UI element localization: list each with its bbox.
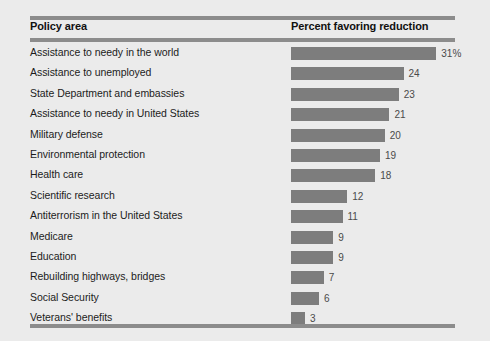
bar-track: 9 xyxy=(291,251,455,265)
bar-value-label: 31% xyxy=(441,47,461,60)
header-rule-bottom xyxy=(30,38,455,42)
bar-value-label: 12 xyxy=(352,190,363,203)
bar-track: 18 xyxy=(291,169,455,183)
bar xyxy=(291,231,333,244)
bar xyxy=(291,190,347,203)
row-label: Social Security xyxy=(30,291,99,303)
bar-track: 19 xyxy=(291,149,455,163)
bar xyxy=(291,292,319,305)
bar-value-label: 19 xyxy=(385,149,396,162)
bar-track: 9 xyxy=(291,231,455,245)
bar xyxy=(291,47,436,60)
row-label: Education xyxy=(30,250,76,262)
bar xyxy=(291,149,380,162)
row-label: Rebuilding highways, bridges xyxy=(30,270,165,282)
bar-value-label: 18 xyxy=(380,169,391,182)
bar xyxy=(291,67,404,80)
table-header: Policy area Percent favoring reduction xyxy=(30,20,455,38)
table-row: Education9 xyxy=(30,248,455,268)
bar-value-label: 9 xyxy=(338,251,344,264)
bar-value-label: 9 xyxy=(338,231,344,244)
row-label: Environmental protection xyxy=(30,148,145,160)
bar-track: 12 xyxy=(291,190,455,204)
table-row: Antiterrorism in the United States11 xyxy=(30,207,455,227)
bar-value-label: 11 xyxy=(348,210,358,223)
bar-track: 31% xyxy=(291,47,455,61)
table-row: Scientific research12 xyxy=(30,187,455,207)
bar-chart: Policy area Percent favoring reduction A… xyxy=(30,0,455,341)
row-label: Assistance to needy in United States xyxy=(30,107,199,119)
bar-value-label: 6 xyxy=(324,292,330,305)
bar-value-label: 20 xyxy=(390,129,401,142)
bar xyxy=(291,169,375,182)
column-header-policy-area: Policy area xyxy=(30,20,87,32)
bar xyxy=(291,251,333,264)
bar xyxy=(291,129,385,142)
row-label: Assistance to needy in the world xyxy=(30,46,179,58)
bar xyxy=(291,210,343,223)
row-label: Medicare xyxy=(30,230,73,242)
bar-value-label: 24 xyxy=(409,67,420,80)
table-row: Assistance to unemployed24 xyxy=(30,64,455,84)
row-label: Veterans' benefits xyxy=(30,311,112,323)
bar xyxy=(291,108,389,121)
bar-track: 23 xyxy=(291,88,455,102)
bar-track: 20 xyxy=(291,129,455,143)
column-header-percent: Percent favoring reduction xyxy=(291,20,428,32)
bar xyxy=(291,271,324,284)
row-label: Assistance to unemployed xyxy=(30,66,151,78)
table-row: Environmental protection19 xyxy=(30,146,455,166)
bar-value-label: 7 xyxy=(329,271,335,284)
bar-value-label: 21 xyxy=(394,108,405,121)
table-row: State Department and embassies23 xyxy=(30,85,455,105)
footer-rule xyxy=(30,324,455,328)
bar-track: 24 xyxy=(291,67,455,81)
row-label: Health care xyxy=(30,168,83,180)
row-label: Scientific research xyxy=(30,189,115,201)
row-label: Antiterrorism in the United States xyxy=(30,209,182,221)
table-row: Health care18 xyxy=(30,166,455,186)
bar-rows: Assistance to needy in the world31%Assis… xyxy=(30,44,455,329)
bar-track: 21 xyxy=(291,108,455,122)
table-row: Social Security6 xyxy=(30,289,455,309)
table-row: Assistance to needy in the world31% xyxy=(30,44,455,64)
bar-track: 11 xyxy=(291,210,455,224)
row-label: Military defense xyxy=(30,128,103,140)
bar-value-label: 23 xyxy=(404,88,415,101)
bar-track: 6 xyxy=(291,292,455,306)
table-row: Assistance to needy in United States21 xyxy=(30,105,455,125)
table-row: Military defense20 xyxy=(30,126,455,146)
bar-track: 7 xyxy=(291,271,455,285)
bar xyxy=(291,88,399,101)
row-label: State Department and embassies xyxy=(30,87,184,99)
table-row: Rebuilding highways, bridges7 xyxy=(30,268,455,288)
table-row: Medicare9 xyxy=(30,228,455,248)
